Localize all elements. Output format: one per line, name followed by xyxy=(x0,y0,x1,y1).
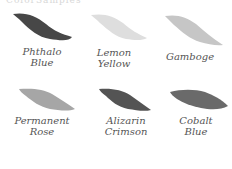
paint-swatch xyxy=(18,88,76,112)
swatch-label-line2: Blue xyxy=(158,126,232,137)
swatch-label: Cobalt Blue xyxy=(158,115,232,137)
swatch-label-line1: Gamboge xyxy=(152,51,228,62)
swatch-label-line2: Blue xyxy=(4,57,80,68)
swatch-label-line1: Alizarin xyxy=(88,115,164,126)
swatch-label: Gamboge xyxy=(152,51,228,62)
swatch-label-line2: Yellow xyxy=(76,58,152,69)
swatch-label: Lemon Yellow xyxy=(76,47,152,69)
swatch-label: Permanent Rose xyxy=(4,115,80,137)
swatch-label-line1: Cobalt xyxy=(158,115,232,126)
swatch-label-line1: Lemon xyxy=(76,47,152,58)
swatch-label-line1: Permanent xyxy=(4,115,80,126)
paint-swatch xyxy=(169,89,229,111)
swatch-label-line1: Phthalo xyxy=(4,46,80,57)
swatch-label: Alizarin Crimson xyxy=(88,115,164,137)
swatch-label: Phthalo Blue xyxy=(4,46,80,68)
swatch-label-line2: Rose xyxy=(4,126,80,137)
paint-swatch xyxy=(98,88,152,112)
paint-swatch xyxy=(164,14,224,46)
header-fragment: ColorSamples xyxy=(6,0,82,5)
paint-swatch xyxy=(12,12,74,42)
paint-swatch xyxy=(90,13,148,41)
swatch-label-line2: Crimson xyxy=(88,126,164,137)
